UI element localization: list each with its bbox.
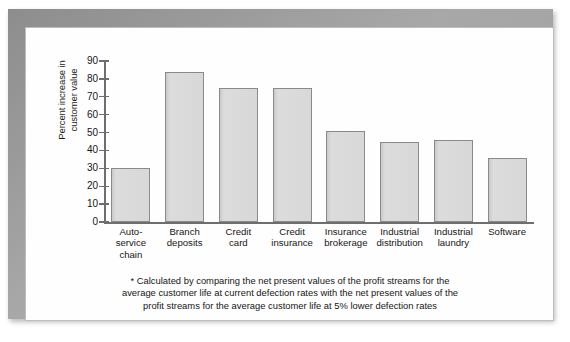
y-axis-tick-label: 50 — [78, 128, 98, 138]
y-axis-tick-label: 10 — [78, 199, 98, 209]
bar-chart: Percent increase in customer value 90807… — [26, 28, 553, 320]
y-axis-tick-label: 80 — [78, 74, 98, 84]
footnote-line-1: * Calculated by comparing the net presen… — [44, 275, 536, 287]
footnote-line-3: profit streams for the average customer … — [44, 300, 536, 312]
y-axis-tick-label: 70 — [78, 92, 98, 102]
bar[interactable] — [326, 131, 365, 222]
x-axis-category-label: Insurance brokerage — [319, 226, 373, 249]
x-axis-category-label: Software — [480, 226, 534, 237]
y-axis-tick-label: 90 — [78, 56, 98, 66]
bar[interactable] — [111, 168, 150, 222]
figure-inner-panel: Percent increase in customer value 90807… — [25, 27, 554, 321]
y-axis-tick-label: 40 — [78, 145, 98, 155]
x-axis-category-label: Credit insurance — [265, 226, 319, 249]
y-axis-tick-label: 20 — [78, 181, 98, 191]
chart-footnote: * Calculated by comparing the net presen… — [44, 275, 536, 312]
x-axis-line — [104, 222, 534, 224]
bar[interactable] — [219, 88, 258, 222]
bar[interactable] — [165, 72, 204, 222]
bar[interactable] — [380, 142, 419, 223]
x-axis-category-label: Auto- service chain — [104, 226, 158, 260]
page-canvas: Percent increase in customer value 90807… — [0, 0, 570, 342]
footnote-line-2: average customer life at current defecti… — [44, 287, 536, 299]
x-axis-category-label: Branch deposits — [158, 226, 212, 249]
y-axis-tick-label: 60 — [78, 110, 98, 120]
x-axis-category-labels: Auto- service chainBranch depositsCredit… — [104, 226, 534, 270]
y-axis-tick-label: 0 — [78, 217, 98, 227]
x-axis-category-label: Industrial laundry — [427, 226, 481, 249]
bar[interactable] — [273, 88, 312, 222]
bar[interactable] — [434, 140, 473, 222]
y-axis-tick-label: 30 — [78, 163, 98, 173]
bar[interactable] — [488, 158, 527, 222]
bar-series — [104, 61, 534, 222]
y-axis-title: Percent increase in customer value — [56, 27, 80, 175]
x-axis-category-label: Credit card — [212, 226, 266, 249]
figure-outer-frame: Percent increase in customer value 90807… — [8, 9, 553, 319]
x-axis-category-label: Industrial distribution — [373, 226, 427, 249]
